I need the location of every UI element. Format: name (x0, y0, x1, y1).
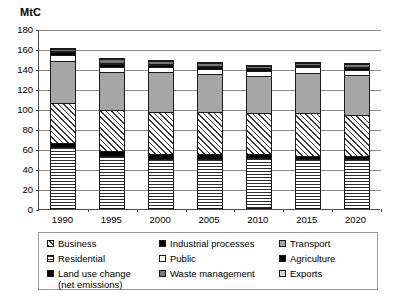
bar-segment (295, 62, 321, 63)
bar-segment (197, 112, 223, 154)
y-tick-mark (36, 170, 39, 171)
legend-label: Residential (58, 253, 105, 264)
bar-segment (246, 158, 272, 209)
legend-item[interactable]: Land use change (net emissions) (47, 268, 131, 290)
x-tick-label-2010: 2010 (234, 214, 282, 225)
y-tick-label: 160 (0, 45, 33, 54)
bar-segment (197, 62, 223, 63)
bar-segment (99, 58, 125, 59)
legend-swatch-icon (47, 270, 54, 277)
legend-swatch-icon (279, 240, 286, 247)
legend-item[interactable]: Public (159, 253, 196, 264)
bar-segment (50, 147, 76, 209)
legend-swatch-icon (159, 270, 166, 277)
y-tick-mark (36, 90, 39, 91)
y-tick-label: 140 (0, 65, 33, 74)
x-tick-mark (88, 209, 89, 212)
bar-segment (197, 67, 223, 69)
bar-segment (344, 67, 370, 68)
bar-2015[interactable] (295, 29, 321, 209)
legend-swatch-icon (279, 255, 286, 262)
bar-segment (246, 154, 272, 158)
y-tick-mark (36, 110, 39, 111)
bar-segment (246, 71, 272, 76)
bar-segment (99, 67, 125, 72)
bar-segment (50, 61, 76, 103)
legend-swatch-icon (47, 255, 54, 262)
legend-item[interactable]: Exports (279, 268, 322, 279)
legend-item[interactable]: Residential (47, 253, 105, 264)
bar-segment (50, 143, 76, 147)
legend-item[interactable]: Industrial processes (159, 238, 254, 249)
x-tick-label-1990: 1990 (38, 214, 86, 225)
bar-segment (344, 75, 370, 115)
legend-item[interactable]: Transport (279, 238, 330, 249)
bar-segment (344, 68, 370, 70)
bar-2020[interactable] (344, 29, 370, 209)
bar-segment (50, 52, 76, 55)
legend-label: Business (58, 238, 97, 249)
bar-segment (99, 156, 125, 209)
bar-segment (295, 156, 321, 159)
bar-segment (50, 51, 76, 52)
legend-label: Exports (290, 268, 322, 279)
bar-segment (197, 69, 223, 74)
y-tick-label: 100 (0, 105, 33, 114)
bar-segment (50, 103, 76, 143)
bar-segment (148, 65, 174, 67)
chart-legend: BusinessIndustrial processesTransportRes… (38, 232, 378, 290)
legend-item[interactable]: Waste management (159, 268, 255, 279)
legend-label: Industrial processes (170, 238, 254, 249)
bar-2005[interactable] (197, 29, 223, 209)
bar-1995[interactable] (99, 29, 125, 209)
legend-swatch-icon (159, 240, 166, 247)
legend-swatch-icon (159, 255, 166, 262)
y-tick-label: 40 (0, 165, 33, 174)
bar-segment (148, 64, 174, 65)
bar-segment (197, 159, 223, 209)
legend-label: Transport (290, 238, 330, 249)
y-tick-label: 180 (0, 25, 33, 34)
legend-item[interactable]: Business (47, 238, 97, 249)
bar-segment (344, 159, 370, 209)
y-tick-mark (36, 210, 39, 211)
x-tick-mark (186, 209, 187, 212)
bar-segment (295, 66, 321, 67)
y-tick-label: 20 (0, 185, 33, 194)
x-tick-mark (137, 209, 138, 212)
y-tick-mark (36, 70, 39, 71)
bar-segment (295, 65, 321, 66)
legend-item[interactable]: Agriculture (279, 253, 335, 264)
bar-segment (148, 112, 174, 154)
plot-area: 180160140120100806040200 (38, 30, 380, 210)
bar-segment (246, 113, 272, 154)
bar-segment (148, 159, 174, 209)
bar-segment (295, 113, 321, 156)
bar-segment (344, 156, 370, 159)
bar-2010[interactable] (246, 29, 272, 209)
bar-segment (246, 68, 272, 69)
bar-segment (344, 115, 370, 156)
bar-2000[interactable] (148, 29, 174, 209)
bar-segment (295, 63, 321, 65)
x-tick-label-2000: 2000 (136, 214, 184, 225)
bar-segment (246, 76, 272, 113)
bar-segment (148, 61, 174, 64)
legend-label: Waste management (170, 268, 255, 279)
y-tick-mark (36, 50, 39, 51)
bar-segment (295, 67, 321, 73)
bar-segment (197, 154, 223, 159)
bar-1990[interactable] (50, 29, 76, 209)
y-tick-mark (36, 190, 39, 191)
y-tick-mark (36, 150, 39, 151)
bar-segment (246, 69, 272, 71)
bar-segment (99, 59, 125, 63)
legend-label: Agriculture (290, 253, 335, 264)
y-tick-label: 60 (0, 145, 33, 154)
bar-segment (50, 49, 76, 51)
legend-swatch-icon (47, 240, 54, 247)
bar-segment (99, 151, 125, 156)
y-tick-mark (36, 130, 39, 131)
bar-segment (295, 73, 321, 113)
bar-segment (344, 64, 370, 67)
